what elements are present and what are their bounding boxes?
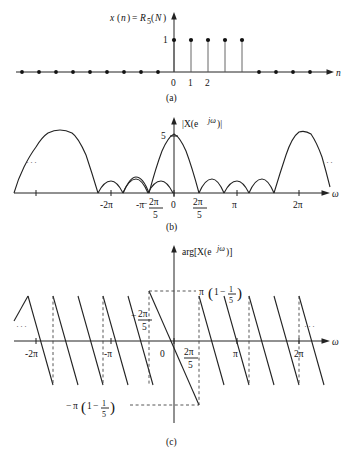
panel-c-pos-den: 5 bbox=[229, 296, 233, 305]
panel-c-positive-level-label: π ( 1 − 1 5 ) bbox=[199, 285, 242, 305]
panel-c-caption: (c) bbox=[166, 437, 177, 448]
panel-c-x-tick-negpi: -π bbox=[104, 349, 112, 359]
panel-a-title-paren-open: ( bbox=[117, 13, 120, 24]
panel-b-x-axis-label: ω bbox=[332, 189, 339, 199]
panel-a-title-arg: n bbox=[121, 13, 126, 23]
panel-c-y-arrow bbox=[171, 245, 177, 253]
panel-a-stems bbox=[172, 38, 244, 72]
panel-a-title-paren-close: ) bbox=[127, 13, 130, 24]
panel-b-y-axis-label: |X(e jω )| bbox=[182, 116, 222, 130]
panel-b-y-label-start: |X(e bbox=[182, 119, 198, 130]
panel-c-discontinuity-guides bbox=[53, 291, 299, 405]
panel-a-x-tick-2: 2 bbox=[205, 78, 210, 88]
panel-c-ellipsis-right: ··· bbox=[304, 321, 316, 331]
panel-b: ω |X(e jω )| 5 bbox=[0, 105, 348, 233]
panel-c-neg-den: 5 bbox=[102, 410, 106, 419]
panel-c-plot: ω arg[X(e jω )] bbox=[0, 233, 348, 453]
panel-c-frac-den: 5 bbox=[142, 322, 147, 332]
panel-a-y-arrow bbox=[171, 12, 177, 20]
panel-b-x-arrow bbox=[322, 190, 331, 196]
panel-b-x-tick-2pi: 2π bbox=[293, 200, 303, 210]
panel-c-neg-num: 1 bbox=[102, 399, 106, 408]
panel-a-x-tick-1: 1 bbox=[188, 78, 193, 88]
panel-c-x-axis-label: ω bbox=[332, 337, 339, 347]
panel-b-y-label-exponent: jω bbox=[207, 116, 216, 125]
panel-c-frac-sign: − bbox=[131, 311, 136, 321]
panel-c-pos-minus: − bbox=[220, 287, 225, 297]
panel-b-y-arrow bbox=[171, 117, 177, 125]
panel-c-neg-paren-open: ( bbox=[81, 399, 86, 416]
panel-c-pos-one: 1 bbox=[214, 287, 219, 297]
panel-c-pos-num: 1 bbox=[229, 285, 233, 294]
panel-c-y-label-end: )] bbox=[226, 247, 232, 258]
panel-c-neg-minus: − bbox=[93, 401, 98, 411]
panel-b-x-tick-zero: 0 bbox=[171, 200, 176, 210]
panel-a-x-tick-0: 0 bbox=[171, 78, 176, 88]
panel-b-caption: (b) bbox=[166, 222, 177, 233]
panel-c-frac-num: 2π bbox=[138, 309, 148, 319]
panel-c-frac-den-right: 5 bbox=[188, 360, 193, 370]
panel-a-x-axis-label: n bbox=[336, 68, 341, 78]
panel-b-ellipsis-right: ··· bbox=[322, 157, 334, 167]
panel-b-y-label-end: )| bbox=[217, 119, 222, 130]
panel-c-neg-paren-close: ) bbox=[110, 399, 115, 416]
panel-a-title-fn: x bbox=[109, 13, 115, 23]
panel-b-x-tick-pi: π bbox=[232, 200, 237, 210]
panel-a-title-R: R bbox=[139, 13, 146, 23]
panel-c-ellipsis-left: ··· bbox=[16, 321, 28, 331]
panel-a-y-tick-1: 1 bbox=[163, 35, 168, 45]
panel-c-x-tick-zero: 0 bbox=[160, 349, 165, 359]
panel-b-frac-den: 5 bbox=[153, 210, 158, 220]
panel-a-plot: x ( n ) = R 5 ( N ) n 1 bbox=[0, 0, 348, 105]
panel-c-frac-num-right: 2π bbox=[184, 347, 194, 357]
panel-a: x ( n ) = R 5 ( N ) n 1 bbox=[0, 0, 348, 105]
panel-c-neg-one: 1 bbox=[87, 401, 92, 411]
panel-c-pos-pi: π bbox=[199, 287, 204, 297]
panel-c-sawtooth bbox=[14, 291, 324, 405]
panel-c-y-label-exponent: jω bbox=[216, 244, 225, 253]
panel-b-frac-num: 2π bbox=[149, 197, 159, 207]
panel-b-ellipsis-left: ··· bbox=[26, 157, 38, 167]
panel-c-pos-paren-open: ( bbox=[208, 285, 213, 302]
panel-a-title-paren2-close: ) bbox=[163, 13, 166, 24]
panel-a-caption: (a) bbox=[166, 93, 177, 104]
panel-c-neg-pi: π bbox=[73, 401, 78, 411]
panel-c-neg-sign: − bbox=[66, 401, 71, 411]
panel-b-x-tick-neg-2pi-over-5: − 2π 5 bbox=[142, 197, 163, 220]
panel-c-negative-level-label: − π ( 1 − 1 5 ) bbox=[66, 399, 115, 419]
panel-c-x-tick-2pi: 2π bbox=[294, 349, 304, 359]
panel-b-frac-num-right: 2π bbox=[193, 197, 203, 207]
panel-c-y-label-start: arg[X(e bbox=[182, 247, 211, 258]
panel-a-title: x ( n ) = R 5 ( N ) bbox=[109, 13, 166, 26]
panel-c: ω arg[X(e jω )] bbox=[0, 233, 348, 453]
panel-a-title-N: N bbox=[154, 13, 162, 23]
panel-b-x-tick-neg2pi: -2π bbox=[100, 200, 113, 210]
panel-b-frac-left-sign: − bbox=[142, 199, 147, 209]
panel-b-curve bbox=[14, 130, 330, 193]
panel-c-x-tick-pi: π bbox=[233, 349, 238, 359]
panel-a-title-eq: = bbox=[132, 13, 137, 23]
panel-c-2pi-over-5-label: 2π 5 bbox=[184, 347, 198, 370]
panel-c-pos-paren-close: ) bbox=[237, 285, 242, 302]
panel-a-x-arrow bbox=[327, 69, 335, 75]
panel-b-frac-den-right: 5 bbox=[197, 210, 202, 220]
panel-c-x-arrow bbox=[322, 338, 331, 344]
panel-a-title-paren2-open: ( bbox=[151, 13, 154, 24]
panel-c-x-tick-neg2pi: -2π bbox=[25, 349, 38, 359]
panel-c-y-axis-label: arg[X(e jω )] bbox=[182, 244, 232, 258]
panel-b-plot: ω |X(e jω )| 5 bbox=[0, 105, 348, 233]
panel-b-y-tick-5: 5 bbox=[161, 131, 166, 141]
panel-b-x-tick-2pi-over-5: 2π 5 bbox=[193, 197, 207, 220]
